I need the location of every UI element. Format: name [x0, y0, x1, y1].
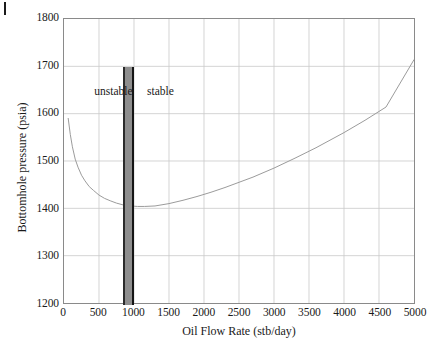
x-axis-tick-labels: 0 500 1000 1500 2000 2500 3000 3500 4000… [63, 307, 415, 323]
x-tick-label: 2000 [192, 307, 215, 319]
stable-region-label: stable [147, 85, 174, 97]
y-tick-label: 1200 [15, 298, 59, 310]
x-tick-label: 3500 [298, 307, 321, 319]
x-tick-label: 500 [90, 307, 107, 319]
page-edge-mark-icon [4, 2, 6, 15]
x-tick-label: 5000 [404, 307, 427, 319]
stability-boundary-bar [123, 67, 134, 305]
x-tick-label: 3000 [263, 307, 286, 319]
unstable-region-label: unstable [94, 85, 132, 97]
x-tick-label: 1500 [157, 307, 180, 319]
pressure-curve [64, 19, 414, 303]
plot-area: unstable stable [63, 18, 415, 304]
x-tick-label: 4000 [333, 307, 356, 319]
y-axis-title: Bottomhole pressure (psia) [16, 68, 29, 268]
chart-figure: 1800 1700 1600 1500 1400 1300 1200 0 500… [0, 0, 443, 348]
x-tick-label: 0 [60, 307, 66, 319]
x-axis-title: Oil Flow Rate (stb/day) [63, 325, 415, 338]
y-tick-label: 1800 [15, 12, 59, 24]
x-tick-label: 4500 [368, 307, 391, 319]
x-tick-label: 2500 [228, 307, 251, 319]
x-tick-label: 1000 [122, 307, 145, 319]
